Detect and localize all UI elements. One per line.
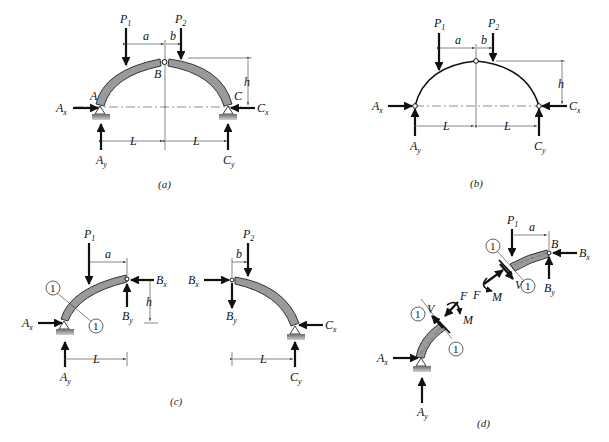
hinge-B-d [547, 251, 551, 255]
arch-segment-BC [168, 59, 232, 106]
label-h-c: h [146, 295, 152, 309]
label-b: b [170, 29, 176, 43]
label-L-c-right: L [259, 352, 267, 366]
label-F-lower: F [459, 289, 468, 303]
arch-segment-upper-d [510, 250, 549, 271]
section-label-1-bottom-c: 1 [93, 320, 99, 332]
label-L-right: L [192, 134, 200, 148]
panel-c: P1 a Bx By h 1 1 Ax Ay L P2 b Bx [21, 227, 337, 408]
label-Cx-c: Cx [325, 318, 337, 334]
label-Cy: Cy [223, 153, 235, 169]
label-F-upper: F [472, 288, 481, 302]
label-B: B [154, 67, 162, 81]
label-Cy-c: Cy [290, 370, 302, 386]
hinge-B-left-c [125, 277, 129, 281]
hinge-A-b [413, 104, 418, 109]
section-label-1-upper-b-d: 1 [525, 280, 531, 292]
hinge-B [162, 60, 167, 65]
label-B-d: B [551, 237, 559, 251]
arch-segment-AB [96, 59, 161, 106]
label-Ay-d: Ay [416, 405, 428, 421]
label-a-b: a [455, 33, 461, 47]
hinge-B-b [474, 59, 479, 64]
caption-c: (c) [170, 395, 183, 408]
label-Ay-c: Ay [59, 370, 71, 386]
arch-segment-lower-d [416, 323, 446, 358]
panel-d: B P1 a Bx By 1 1 V F M 1 1 V [376, 213, 590, 430]
arch-line [415, 61, 539, 106]
axial-arrow-F-upper [484, 270, 503, 284]
label-M-lower: M [462, 313, 474, 327]
label-Ax-d: Ax [376, 351, 388, 367]
hinge-C-b [537, 104, 542, 109]
ground-A-c [56, 329, 74, 335]
arch-segment-right-c [235, 277, 299, 326]
label-Bx-left: Bx [156, 273, 167, 289]
pin-support-C-c [290, 326, 300, 334]
label-Bx-d: Bx [579, 246, 590, 262]
label-Ay: Ay [95, 153, 107, 169]
caption-b: (b) [470, 177, 483, 190]
ground-A-d [413, 366, 431, 372]
label-b-b: b [481, 33, 487, 47]
label-Ax-b: Ax [371, 99, 383, 115]
section-label-1-lower-b-d: 1 [453, 343, 459, 355]
label-P2-b: P2 [487, 16, 499, 32]
label-P1-b: P1 [433, 16, 445, 32]
label-L-left-b: L [442, 119, 450, 133]
arch-segment-left-c [61, 275, 127, 321]
label-By-d: By [544, 281, 555, 297]
label-A: A [89, 89, 98, 103]
section-label-1-upper-a-d: 1 [490, 240, 496, 252]
label-Ax: Ax [55, 101, 67, 117]
label-L-right-b: L [503, 119, 511, 133]
caption-d: (d) [477, 417, 490, 430]
label-By-right: By [226, 309, 237, 325]
label-a-c: a [105, 247, 111, 261]
panel-b: P1 P2 a b h Ax Cx Ay Cy L L (b) [371, 16, 581, 190]
caption-a: (a) [158, 178, 171, 191]
section-label-1-lower-a-d: 1 [415, 308, 421, 320]
label-a: a [143, 29, 149, 43]
label-Ax-c: Ax [21, 316, 33, 332]
label-M-upper: M [491, 290, 503, 304]
three-hinged-arch-figure: P1 P2 a b h A B C Ax Cx Ay Cy L L (a) [0, 0, 609, 442]
label-C: C [234, 89, 243, 103]
label-L-left: L [129, 134, 137, 148]
label-h: h [244, 75, 250, 89]
hinge-B-right-c [230, 278, 234, 282]
label-a-d: a [529, 220, 535, 234]
label-V-lower: V [427, 302, 436, 316]
label-P1-c: P1 [83, 227, 95, 243]
ground-A [92, 114, 110, 120]
label-Cx: Cx [257, 101, 269, 117]
label-By-left: By [122, 309, 133, 325]
label-P2-c: P2 [242, 227, 254, 243]
label-h-b: h [558, 77, 564, 91]
label-L-c-left: L [92, 352, 100, 366]
panel-a: P1 P2 a b h A B C Ax Cx Ay Cy L L (a) [55, 12, 269, 191]
label-P1: P1 [119, 12, 131, 28]
label-P2: P2 [174, 12, 186, 28]
label-P1-d: P1 [506, 213, 518, 229]
ground-C [219, 114, 237, 120]
label-b-c: b [236, 247, 242, 261]
label-Cx-b: Cx [569, 99, 581, 115]
ground-C-c [287, 334, 305, 340]
label-Ay-b: Ay [409, 139, 421, 155]
label-Bx-right: Bx [188, 273, 199, 289]
pin-support-A-d [416, 358, 426, 366]
label-Cy-b: Cy [534, 139, 546, 155]
section-label-1-top-c: 1 [50, 282, 56, 294]
